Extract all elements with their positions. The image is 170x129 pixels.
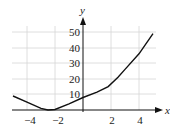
x-tick-neg2: −2 xyxy=(52,114,64,126)
y-tick-20: 20 xyxy=(69,73,81,85)
x-tick-2: 2 xyxy=(109,114,115,126)
y-tick-labels: 10 20 30 40 50 xyxy=(69,26,81,100)
y-tick-10: 10 xyxy=(69,88,81,100)
x-tick-labels: −4 −2 2 4 xyxy=(24,114,143,126)
y-tick-30: 30 xyxy=(69,57,81,69)
y-tick-50: 50 xyxy=(69,26,81,38)
axes xyxy=(12,17,163,113)
x-tick-4: 4 xyxy=(137,114,143,126)
chart: x y −4 −2 2 4 10 20 30 40 50 xyxy=(0,0,170,129)
y-axis-label: y xyxy=(79,4,85,16)
y-axis-arrow-icon xyxy=(80,17,86,25)
x-tick-neg4: −4 xyxy=(24,114,36,126)
x-axis-arrow-icon xyxy=(155,107,163,113)
y-tick-40: 40 xyxy=(69,42,81,54)
x-axis-label: x xyxy=(164,104,170,116)
